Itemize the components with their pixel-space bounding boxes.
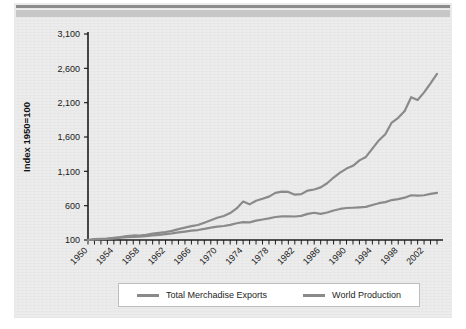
svg-text:2,600: 2,600 xyxy=(57,64,80,74)
svg-text:1,100: 1,100 xyxy=(57,167,80,177)
top-rule-band xyxy=(16,10,450,17)
axis-lines xyxy=(88,32,443,240)
chart-legend: Total Merchadise Exports World Productio… xyxy=(118,283,420,307)
legend-item-world-production: World Production xyxy=(303,290,401,300)
chart-svg: Index 1950=100 1006001,1001,6002,1002,60… xyxy=(14,20,452,280)
svg-text:600: 600 xyxy=(65,201,80,211)
top-rule-dark xyxy=(16,5,450,8)
line-chart: Index 1950=100 1006001,1001,6002,1002,60… xyxy=(14,20,452,280)
legend-swatch-icon xyxy=(303,294,325,297)
legend-label: World Production xyxy=(332,290,401,300)
svg-text:1994: 1994 xyxy=(353,245,374,266)
svg-text:Index 1950=100: Index 1950=100 xyxy=(21,102,32,172)
svg-text:1954: 1954 xyxy=(94,245,115,266)
svg-text:100: 100 xyxy=(65,235,80,245)
svg-text:2,100: 2,100 xyxy=(57,98,80,108)
svg-text:1970: 1970 xyxy=(197,245,218,266)
y-axis-title: Index 1950=100 xyxy=(21,102,32,172)
data-series-group xyxy=(88,74,437,240)
legend-swatch-icon xyxy=(137,294,159,297)
svg-text:1982: 1982 xyxy=(275,245,296,266)
svg-text:1966: 1966 xyxy=(172,245,193,266)
svg-text:1986: 1986 xyxy=(301,245,322,266)
svg-text:1950: 1950 xyxy=(68,245,89,266)
svg-text:1962: 1962 xyxy=(146,245,167,266)
legend-item-total-merchadise-exports: Total Merchadise Exports xyxy=(137,290,267,300)
x-axis-tick-labels: 1950195419581962196619701974197819821986… xyxy=(68,240,437,267)
svg-text:1,600: 1,600 xyxy=(57,132,80,142)
svg-text:1974: 1974 xyxy=(223,245,244,266)
legend-label: Total Merchadise Exports xyxy=(166,290,267,300)
figure-page: Index 1950=100 1006001,1001,6002,1002,60… xyxy=(0,0,466,329)
svg-text:1958: 1958 xyxy=(120,245,141,266)
y-axis-tick-labels: 1006001,1001,6002,1002,6003,100 xyxy=(57,29,88,245)
svg-text:3,100: 3,100 xyxy=(57,29,80,39)
svg-text:2002: 2002 xyxy=(404,245,425,266)
svg-text:1978: 1978 xyxy=(249,245,270,266)
svg-text:1998: 1998 xyxy=(378,245,399,266)
svg-text:1990: 1990 xyxy=(327,245,348,266)
